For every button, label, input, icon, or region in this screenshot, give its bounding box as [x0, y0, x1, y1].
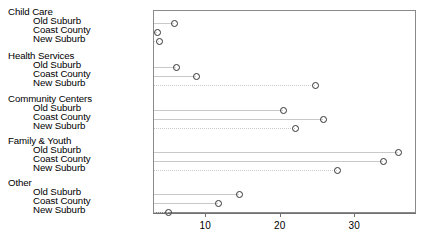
row-guide-line — [154, 152, 398, 153]
category-label-column: Child CareOld SuburbCoast CountyNew Subu… — [0, 0, 150, 246]
dot-chart-figure: Child CareOld SuburbCoast CountyNew Subu… — [0, 0, 424, 246]
data-point[interactable] — [171, 20, 178, 27]
row-guide-line — [154, 110, 283, 111]
group-label: Other — [8, 178, 32, 188]
row-guide-line — [154, 128, 295, 129]
category-label: New Suburb — [33, 121, 85, 131]
data-point[interactable] — [320, 116, 327, 123]
data-point[interactable] — [395, 149, 402, 156]
x-axis-tick-label: 10 — [200, 220, 211, 231]
data-point[interactable] — [193, 73, 200, 80]
row-guide-line — [154, 76, 196, 77]
x-axis-tick-label: 30 — [349, 220, 360, 231]
x-axis-line — [153, 213, 416, 214]
category-label: New Suburb — [33, 78, 85, 88]
data-point[interactable] — [334, 167, 341, 174]
data-point[interactable] — [292, 125, 299, 132]
data-point[interactable] — [280, 107, 287, 114]
row-guide-line — [154, 203, 218, 204]
plot-panel — [153, 10, 416, 213]
x-axis-tick — [354, 213, 355, 217]
row-guide-line — [154, 85, 315, 86]
data-point[interactable] — [154, 29, 161, 36]
data-point[interactable] — [215, 200, 222, 207]
row-guide-line — [154, 161, 383, 162]
category-label: New Suburb — [33, 205, 85, 215]
row-guide-line — [154, 194, 239, 195]
category-label: New Suburb — [33, 163, 85, 173]
data-point[interactable] — [312, 82, 319, 89]
data-point[interactable] — [380, 158, 387, 165]
category-label: New Suburb — [33, 34, 85, 44]
x-axis-tick-label: 20 — [274, 220, 285, 231]
data-point[interactable] — [156, 38, 163, 45]
x-axis-tick — [205, 213, 206, 217]
data-point[interactable] — [173, 64, 180, 71]
data-point[interactable] — [236, 191, 243, 198]
row-guide-line — [154, 119, 323, 120]
x-axis-tick — [280, 213, 281, 217]
figure-caption — [0, 240, 424, 246]
row-guide-line — [154, 170, 337, 171]
